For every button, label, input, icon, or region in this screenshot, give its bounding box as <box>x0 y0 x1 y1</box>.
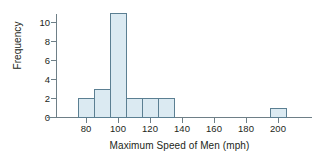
y-tick-marks <box>51 23 57 118</box>
bar-75-85 <box>79 99 95 118</box>
histogram-bars <box>79 13 287 118</box>
histogram-chart: Frequency Maximum Speed of Men (mph) 10 … <box>0 0 324 162</box>
bar-125-135 <box>159 99 175 118</box>
bar-195-205 <box>271 108 287 118</box>
x-tick-marks <box>87 118 279 124</box>
bar-115-125 <box>143 99 159 118</box>
bar-95-105 <box>111 13 127 118</box>
plot-area <box>0 0 324 162</box>
bar-105-115 <box>127 99 143 118</box>
bar-85-95 <box>95 89 111 118</box>
